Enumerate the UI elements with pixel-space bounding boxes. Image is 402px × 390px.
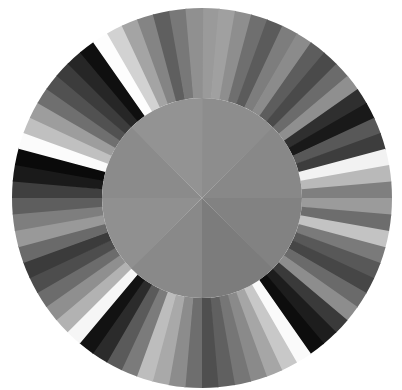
radial-chart bbox=[0, 0, 402, 390]
radial-chart-container bbox=[0, 0, 402, 390]
inner-disc bbox=[102, 98, 302, 298]
